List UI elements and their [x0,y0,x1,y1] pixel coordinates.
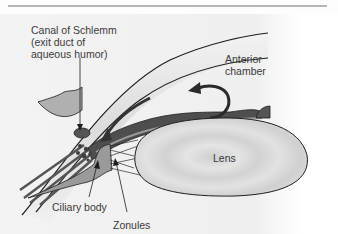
label-lens: Lens [213,152,236,164]
label-canal-of-schlemm: Canal of Schlemm (exit duct of aqueous h… [31,24,141,60]
canal-of-schlemm [74,128,90,138]
label-line: chamber [225,65,266,77]
label-line: Canal of Schlemm [31,24,141,36]
label-zonules: Zonules [113,219,150,231]
label-anterior-chamber: Anterior chamber [225,53,266,77]
label-line: Anterior [225,53,266,65]
label-ciliary-body: Ciliary body [52,201,107,213]
anterior-eye-diagram: Canal of Schlemm (exit duct of aqueous h… [0,0,338,234]
label-line: aqueous humor) [31,48,141,60]
label-line: (exit duct of [31,36,141,48]
